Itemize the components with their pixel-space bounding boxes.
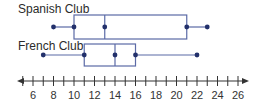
q3-point xyxy=(133,53,138,58)
min-point xyxy=(41,53,46,58)
tick-label: 20 xyxy=(170,89,182,101)
box-plot-french-club: French Club xyxy=(18,39,199,66)
q1-point xyxy=(72,25,77,30)
iqr-box xyxy=(84,44,135,66)
tick-label: 8 xyxy=(50,89,56,101)
series-label: French Club xyxy=(18,39,84,53)
iqr-box xyxy=(74,15,187,39)
tick-label: 10 xyxy=(68,89,80,101)
tick-label: 12 xyxy=(88,89,100,101)
tick-label: 16 xyxy=(129,89,141,101)
tick-label: 14 xyxy=(109,89,121,101)
min-point xyxy=(51,25,56,30)
series-label: Spanish Club xyxy=(18,2,90,16)
tick-label: 18 xyxy=(150,89,162,101)
median-point xyxy=(113,53,118,58)
tick-label: 26 xyxy=(232,89,244,101)
q3-point xyxy=(184,25,189,30)
box-plot-chart: Spanish ClubFrench Club 6810121416182022… xyxy=(0,0,265,106)
right-arrow-icon xyxy=(242,78,249,84)
tick-label: 22 xyxy=(191,89,203,101)
number-line-axis: 68101214161820222426 xyxy=(17,76,249,101)
tick-label: 24 xyxy=(211,89,223,101)
max-point xyxy=(195,53,200,58)
tick-label: 6 xyxy=(30,89,36,101)
box-plot-spanish-club: Spanish Club xyxy=(18,2,210,39)
q1-point xyxy=(82,53,87,58)
max-point xyxy=(205,25,210,30)
median-point xyxy=(102,25,107,30)
